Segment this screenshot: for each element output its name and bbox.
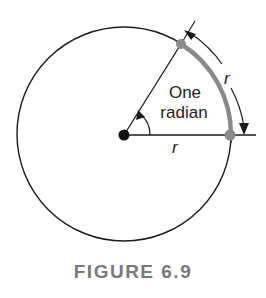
dimension-arc-upper <box>190 33 222 64</box>
angle-label-line2: radian <box>160 103 207 122</box>
arrowhead-bottom-icon <box>239 123 249 135</box>
angle-label-line1: One <box>169 83 201 102</box>
center-point <box>119 130 130 141</box>
arc-length-label: r <box>224 69 231 88</box>
point-top <box>176 39 186 49</box>
radius-label: r <box>172 138 179 157</box>
figure-caption: FIGURE 6.9 <box>0 261 266 283</box>
angle-arrowhead-icon <box>136 110 145 120</box>
dimension-arc-lower <box>231 88 244 127</box>
radian-diagram: One radian r r <box>0 0 266 298</box>
point-right <box>225 130 236 141</box>
